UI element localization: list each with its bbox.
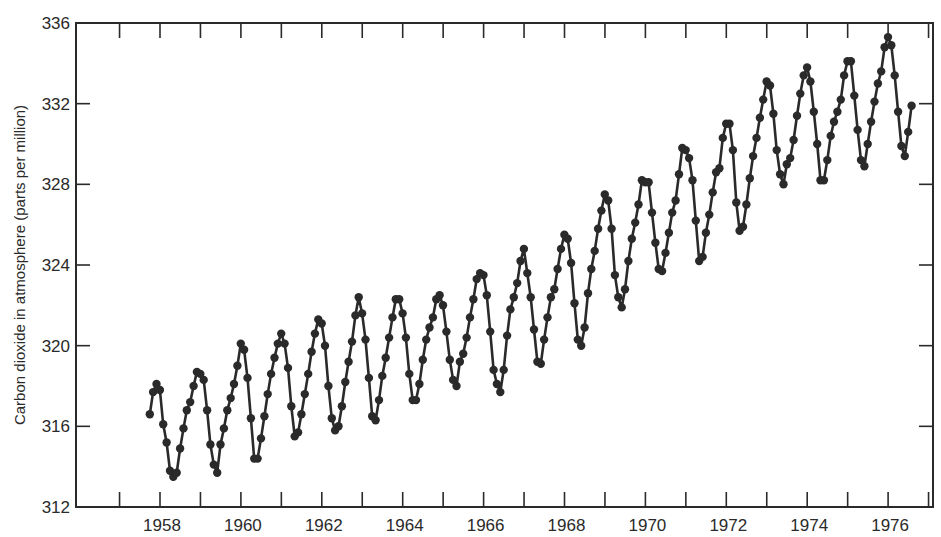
data-point xyxy=(813,140,821,148)
data-point xyxy=(398,309,406,317)
x-tick-label: 1968 xyxy=(548,516,586,535)
data-point xyxy=(425,323,433,331)
data-point xyxy=(230,380,238,388)
x-tick-label: 1960 xyxy=(224,516,262,535)
data-point xyxy=(520,245,528,253)
data-point xyxy=(833,108,841,116)
data-point xyxy=(439,301,447,309)
data-point xyxy=(405,370,413,378)
data-point xyxy=(719,134,727,142)
data-point xyxy=(264,390,272,398)
data-point xyxy=(837,95,845,103)
y-axis-label: Carbon dioxide in atmosphere (parts per … xyxy=(11,105,28,425)
y-tick-label: 320 xyxy=(42,337,70,356)
plot-frame xyxy=(76,23,933,507)
data-point xyxy=(789,136,797,144)
data-point xyxy=(355,293,363,301)
data-point xyxy=(618,303,626,311)
data-point xyxy=(874,79,882,87)
data-point xyxy=(270,354,278,362)
data-point xyxy=(847,57,855,65)
data-point xyxy=(830,118,838,126)
data-point xyxy=(294,428,302,436)
data-point xyxy=(803,63,811,71)
data-point xyxy=(877,67,885,75)
plot-border xyxy=(76,23,933,507)
data-point xyxy=(580,323,588,331)
data-point xyxy=(173,469,181,477)
data-point xyxy=(516,257,524,265)
data-point xyxy=(746,174,754,182)
data-point xyxy=(570,299,578,307)
data-point xyxy=(162,438,170,446)
data-point xyxy=(840,71,848,79)
data-point xyxy=(456,358,464,366)
data-point xyxy=(527,293,535,301)
y-tick-label: 324 xyxy=(42,256,70,275)
data-point xyxy=(287,402,295,410)
data-point xyxy=(567,259,575,267)
data-point xyxy=(183,406,191,414)
data-point xyxy=(462,333,470,341)
data-point xyxy=(884,33,892,41)
data-point xyxy=(156,386,164,394)
data-point xyxy=(800,71,808,79)
data-point xyxy=(324,382,332,390)
data-point xyxy=(385,333,393,341)
data-point xyxy=(827,132,835,140)
x-tick-label: 1966 xyxy=(467,516,505,535)
data-point xyxy=(338,402,346,410)
data-point xyxy=(344,358,352,366)
data-point xyxy=(897,142,905,150)
data-point xyxy=(779,180,787,188)
data-point xyxy=(348,337,356,345)
data-point xyxy=(773,146,781,154)
data-point xyxy=(901,152,909,160)
data-point xyxy=(223,406,231,414)
data-point xyxy=(412,396,420,404)
data-point xyxy=(486,327,494,335)
data-point xyxy=(220,424,228,432)
data-point xyxy=(715,164,723,172)
data-point xyxy=(496,388,504,396)
data-point xyxy=(267,370,275,378)
data-point xyxy=(810,108,818,116)
data-point xyxy=(371,416,379,424)
y-tick-label: 336 xyxy=(42,14,70,33)
data-point xyxy=(446,356,454,364)
data-point xyxy=(698,253,706,261)
data-point xyxy=(179,424,187,432)
data-point xyxy=(247,414,255,422)
data-point xyxy=(365,374,373,382)
data-point xyxy=(506,305,514,313)
data-point xyxy=(311,329,319,337)
data-point xyxy=(540,335,548,343)
y-tick-label: 328 xyxy=(42,175,70,194)
data-point xyxy=(543,313,551,321)
data-point xyxy=(594,225,602,233)
data-point xyxy=(557,245,565,253)
y-axis: 312316320324328332336 xyxy=(42,14,933,517)
data-point xyxy=(233,362,241,370)
data-point xyxy=(597,206,605,214)
data-point xyxy=(503,331,511,339)
data-point xyxy=(203,406,211,414)
data-point xyxy=(402,333,410,341)
data-point xyxy=(742,200,750,208)
data-point xyxy=(510,293,518,301)
data-point xyxy=(378,372,386,380)
data-point xyxy=(709,188,717,196)
data-point xyxy=(739,223,747,231)
data-point xyxy=(607,225,615,233)
data-point xyxy=(422,335,430,343)
data-point xyxy=(564,235,572,243)
data-point xyxy=(257,434,265,442)
data-point xyxy=(870,97,878,105)
data-point xyxy=(213,469,221,477)
data-point xyxy=(769,110,777,118)
data-point xyxy=(823,156,831,164)
data-point xyxy=(297,410,305,418)
x-tick-label: 1962 xyxy=(305,516,343,535)
data-point xyxy=(658,267,666,275)
data-point xyxy=(307,348,315,356)
